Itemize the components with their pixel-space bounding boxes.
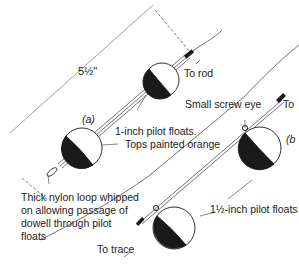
- nylon-loop-label-1: Thick nylon loop whipped: [21, 191, 139, 203]
- float-b-upper: [238, 127, 281, 170]
- to-rod-label: To rod: [184, 67, 213, 79]
- dimension-label: 5½": [78, 65, 97, 77]
- float-rig-diagram: 5½" (a) (b To rod Small screw eye To 1-i…: [0, 0, 299, 267]
- small-screw-eye-label: Small screw eye: [185, 98, 261, 110]
- nylon-loop-label-3: dowell through pilot: [21, 217, 111, 229]
- one-half-inch-floats-label: 1½-inch pilot floats: [210, 203, 298, 215]
- panel-b-label: (b: [286, 133, 295, 145]
- panel-a-label: (a): [82, 113, 95, 125]
- float-a-lower: [62, 128, 102, 169]
- dimension-line: [10, 5, 190, 200]
- tops-painted-label: Tops painted orange: [125, 138, 220, 150]
- float-a-upper: [143, 63, 179, 99]
- nylon-loop-label-4: floats: [21, 230, 46, 242]
- float-b-lower: [153, 207, 195, 249]
- nylon-loop: [46, 166, 58, 178]
- rod-fitting-a: [184, 49, 194, 58]
- to-top-right-label: To: [283, 98, 294, 110]
- nylon-loop-label-2: on allowing passage of: [21, 204, 128, 216]
- to-trace-label: To trace: [97, 243, 134, 255]
- one-inch-floats-label: 1-inch pilot floats.: [115, 125, 197, 137]
